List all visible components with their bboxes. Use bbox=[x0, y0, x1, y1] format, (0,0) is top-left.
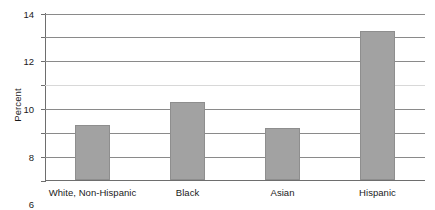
x-axis-category-label: Black bbox=[176, 187, 199, 198]
y-axis-tick: 0 bbox=[41, 181, 45, 182]
x-axis-category-label: White, Non-Hispanic bbox=[49, 187, 137, 198]
bar[interactable] bbox=[75, 125, 110, 180]
bar[interactable] bbox=[360, 31, 395, 180]
y-axis-tick: 14 bbox=[41, 14, 45, 15]
bar[interactable] bbox=[170, 102, 205, 180]
y-axis-tick: 8 bbox=[41, 85, 45, 86]
y-axis-tick: 12 bbox=[41, 37, 45, 38]
bar[interactable] bbox=[265, 128, 300, 180]
y-axis-tick: 2 bbox=[41, 157, 45, 158]
y-axis-tick-label: 8 bbox=[29, 151, 34, 162]
x-axis-line bbox=[45, 180, 425, 181]
y-axis-tick-label: 14 bbox=[23, 8, 34, 19]
y-axis-tick-label: 10 bbox=[23, 103, 34, 114]
bar-chart: Percent 02468101214 White, Non-HispanicB… bbox=[0, 0, 435, 210]
y-axis-tick-label: 6 bbox=[29, 199, 34, 210]
plot-area: 02468101214 bbox=[45, 14, 425, 181]
y-axis-title: Percent bbox=[10, 0, 24, 210]
x-axis-category-label: Hispanic bbox=[359, 187, 396, 198]
y-axis-tick: 4 bbox=[41, 133, 45, 134]
gridline bbox=[45, 14, 425, 15]
y-axis-tick-label: 12 bbox=[23, 56, 34, 67]
y-axis-tick: 10 bbox=[41, 61, 45, 62]
y-axis-tick: 6 bbox=[41, 109, 45, 110]
x-axis-category-label: Asian bbox=[270, 187, 294, 198]
